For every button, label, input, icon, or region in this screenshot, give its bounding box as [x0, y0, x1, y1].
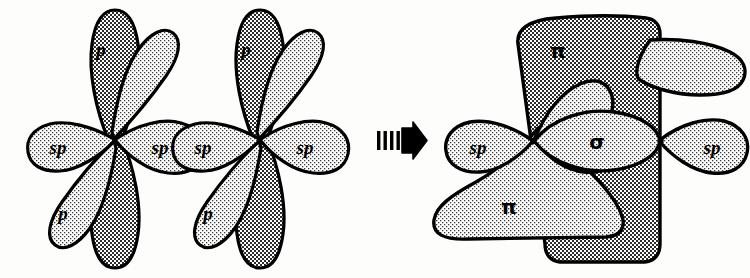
arrow-bar-1	[377, 131, 380, 150]
arrow-bar-3	[390, 131, 393, 150]
sigma-bond-label: σ	[589, 130, 605, 154]
nucleus-left	[530, 138, 536, 144]
atom-2-p-up-label: p	[239, 39, 251, 60]
atom-2-p-lower-left-label: p	[201, 203, 213, 224]
sp-left-terminal-label: sp	[469, 137, 487, 158]
pi-bond-vertical-label: π	[550, 39, 566, 63]
sp-right-terminal-label: sp	[703, 137, 721, 158]
atom-1-sp-right-label: sp	[151, 137, 169, 158]
orbital-hybridization-diagram: p sp sp p p sp sp p	[0, 0, 750, 278]
atom-1-sp-left-label: sp	[49, 137, 67, 158]
arrow-bar-4	[397, 131, 400, 150]
figure-canvas: p sp sp p p sp sp p	[0, 0, 750, 278]
pi-bond-diagonal-label: π	[501, 195, 517, 219]
nucleus-right	[657, 138, 663, 144]
arrow-bar-2	[384, 131, 387, 150]
atom-1-p-up-label: p	[94, 39, 106, 60]
atom-2-sp-left-label: sp	[194, 137, 212, 158]
atom-1-p-lower-left-label: p	[56, 203, 68, 224]
atom-2-sp-right-label: sp	[296, 137, 314, 158]
